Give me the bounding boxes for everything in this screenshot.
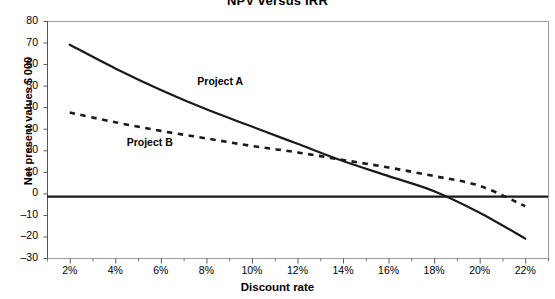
plot-area bbox=[0, 0, 555, 299]
plot-frame bbox=[48, 22, 549, 259]
series-label-project-a: Project A bbox=[197, 75, 243, 87]
series-line-project-b bbox=[70, 113, 525, 207]
series-label-project-b: Project B bbox=[127, 136, 173, 148]
npv-versus-irr-chart: NPV versus IRR Net present values $ 000 … bbox=[0, 0, 555, 299]
